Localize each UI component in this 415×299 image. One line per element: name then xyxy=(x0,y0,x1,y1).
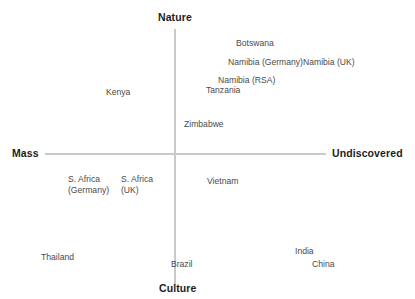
data-point-label-botswana: Botswana xyxy=(236,38,274,49)
horizontal-axis-line xyxy=(45,153,326,155)
axis-pole-label-undiscovered: Undiscovered xyxy=(332,147,403,159)
data-point-label-tanzania: Tanzania xyxy=(206,85,240,96)
data-point-label-india: India xyxy=(295,246,314,257)
s-africa-uk-line-2: (UK) xyxy=(121,185,139,195)
data-point-label-namibia-uk: Namibia (UK) xyxy=(303,57,355,68)
data-point-label-thailand: Thailand xyxy=(41,252,74,263)
s-africa-uk-line-1: S. Africa xyxy=(121,174,153,184)
data-point-label-namibia-germany: Namibia (Germany) xyxy=(228,57,303,68)
data-point-label-s-africa-uk: S. Africa(UK) xyxy=(121,174,153,195)
data-point-label-zimbabwe: Zimbabwe xyxy=(184,119,224,130)
axis-pole-label-nature: Nature xyxy=(158,11,192,23)
data-point-label-namibia-rsa: Namibia (RSA) xyxy=(218,75,275,86)
s-africa-germany-line-1: S. Africa xyxy=(68,174,100,184)
perceptual-map-chart: Nature Culture Mass Undiscovered Botswan… xyxy=(0,0,415,299)
data-point-label-vietnam: Vietnam xyxy=(207,176,238,187)
axis-pole-label-culture: Culture xyxy=(159,282,196,294)
vertical-axis-line xyxy=(174,29,176,285)
data-point-label-kenya: Kenya xyxy=(106,87,130,98)
axis-pole-label-mass: Mass xyxy=(12,147,39,159)
data-point-label-china: China xyxy=(312,259,334,270)
data-point-label-brazil: Brazil xyxy=(171,259,193,270)
data-point-label-s-africa-germany: S. Africa(Germany) xyxy=(68,174,109,195)
s-africa-germany-line-2: (Germany) xyxy=(68,185,109,195)
